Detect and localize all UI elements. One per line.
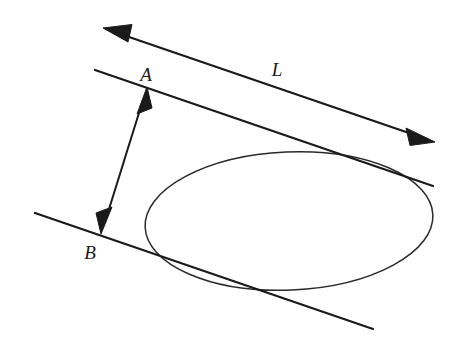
line-L-start-arrowhead bbox=[103, 25, 132, 43]
line-L-end-arrowhead bbox=[406, 128, 435, 146]
label-line-l: L bbox=[271, 59, 283, 80]
upper-tangent-line bbox=[95, 70, 433, 186]
upper-tangent-stroke bbox=[95, 70, 433, 186]
geometry-figure: L A B bbox=[0, 0, 458, 351]
ellipse-path bbox=[142, 146, 436, 296]
segment-ab-start-arrowhead bbox=[137, 87, 152, 114]
line-L bbox=[103, 25, 435, 146]
ellipse-shape bbox=[142, 146, 436, 296]
segment-ab-stroke bbox=[105, 100, 143, 222]
lower-tangent-line bbox=[35, 213, 373, 329]
figure-canvas: L A B bbox=[0, 0, 458, 351]
lower-tangent-stroke bbox=[35, 213, 373, 329]
segment-ab bbox=[96, 87, 152, 234]
segment-ab-end-arrowhead bbox=[96, 207, 112, 234]
line-L-stroke bbox=[113, 32, 425, 139]
label-point-b: B bbox=[84, 242, 96, 263]
label-point-a: A bbox=[138, 64, 152, 85]
